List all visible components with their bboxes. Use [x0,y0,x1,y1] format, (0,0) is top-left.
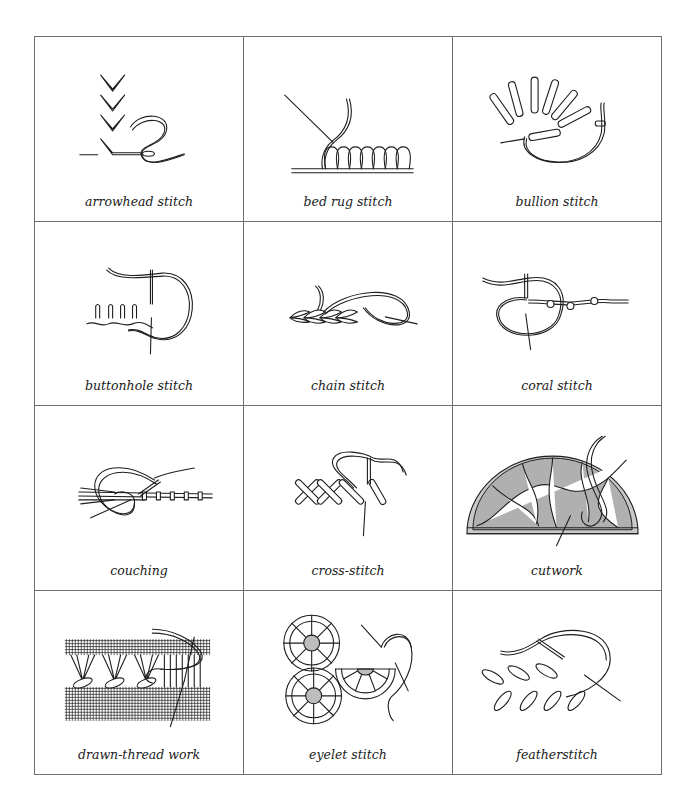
stitch-label: cross-stitch [244,563,452,578]
stitch-cell-couching: couching [35,406,244,591]
stitch-grid: arrowhead stitch bed rug stitch [34,36,662,775]
stitch-label: bed rug stitch [244,194,452,209]
stitch-label: bullion stitch [453,194,661,209]
couching-illustration [35,406,243,556]
eyelet-stitch-illustration [244,591,452,741]
stitch-label: buttonhole stitch [35,378,243,393]
buttonhole-stitch-illustration [35,222,243,372]
stitch-cell-cross: cross-stitch [244,406,453,591]
stitch-label: cutwork [453,563,661,578]
stitch-cell-eyelet: eyelet stitch [244,591,453,776]
stitch-cell-chain: chain stitch [244,222,453,407]
cutwork-illustration [453,406,661,556]
coral-stitch-illustration [453,222,661,372]
stitch-cell-bed-rug: bed rug stitch [244,37,453,222]
stitch-label: eyelet stitch [244,747,452,762]
stitch-cell-drawn-thread: drawn-thread work [35,591,244,776]
stitch-cell-coral: coral stitch [453,222,662,407]
stitch-label: drawn-thread work [35,747,243,762]
stitch-label: coral stitch [453,378,661,393]
drawn-thread-work-illustration [35,591,243,741]
stitch-label: chain stitch [244,378,452,393]
featherstitch-illustration [453,591,661,741]
chain-stitch-illustration [244,222,452,372]
stitch-cell-buttonhole: buttonhole stitch [35,222,244,407]
stitch-cell-arrowhead: arrowhead stitch [35,37,244,222]
stitch-label: featherstitch [453,747,661,762]
stitch-label: arrowhead stitch [35,194,243,209]
arrowhead-stitch-illustration [35,37,243,187]
stitch-cell-cutwork: cutwork [453,406,662,591]
bullion-stitch-illustration [453,37,661,187]
stitch-cell-bullion: bullion stitch [453,37,662,222]
cross-stitch-illustration [244,406,452,556]
stitch-cell-featherstitch: featherstitch [453,591,662,776]
bed-rug-stitch-illustration [244,37,452,187]
stitch-label: couching [35,563,243,578]
